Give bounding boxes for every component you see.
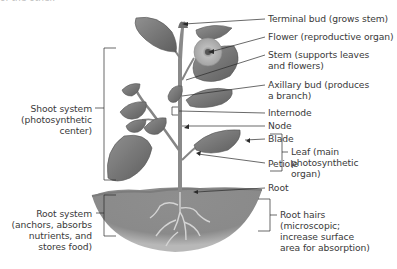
label-internode: Internode	[268, 107, 311, 118]
label-terminal-bud: Terminal bud (grows stem)	[268, 13, 388, 24]
label-shoot-system: Shoot system(photosyntheticcenter)	[21, 103, 92, 136]
label-blade: Blade	[268, 133, 293, 144]
leaves	[107, 17, 240, 181]
label-root-hairs: Root hairs(microscopic;increase surfacea…	[280, 209, 370, 253]
label-stem: Stem (supports leavesand flowers)	[268, 49, 369, 71]
label-flower: Flower (reproductive organ)	[268, 31, 393, 42]
label-root: Root	[268, 182, 288, 193]
stem	[136, 28, 202, 192]
label-root-system: Root system(anchors, absorbsnutrients, a…	[11, 208, 92, 252]
label-leaf: Leaf (mainphotosyntheticorgan)	[291, 146, 358, 179]
label-node: Node	[268, 120, 292, 131]
plant-diagram: of the other.	[0, 0, 397, 269]
soil	[92, 187, 262, 252]
label-axillary-bud: Axillary bud (producesa branch)	[268, 79, 369, 101]
